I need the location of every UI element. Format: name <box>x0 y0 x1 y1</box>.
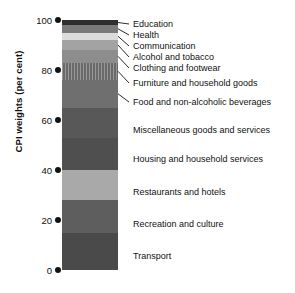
bar-segment <box>62 25 118 33</box>
bar-segment <box>62 200 118 233</box>
segment-label: Furniture and household goods <box>133 79 258 88</box>
y-tick-dot <box>55 17 61 23</box>
bar-segment <box>62 40 118 50</box>
bar-segment <box>62 33 118 41</box>
y-tick-label: 80 <box>0 65 52 76</box>
stacked-bar <box>62 20 118 270</box>
leader-line <box>118 29 129 35</box>
bar-segment <box>62 233 118 271</box>
bar-segment <box>62 20 118 25</box>
segment-label: Housing and household services <box>133 155 263 164</box>
y-tick-dot <box>55 217 61 223</box>
y-tick-label: 0 <box>0 265 52 276</box>
bar-segment <box>62 80 118 108</box>
y-tick-dot <box>55 267 61 273</box>
y-tick-label: 20 <box>0 215 52 226</box>
y-tick-dot <box>55 117 61 123</box>
leader-line <box>118 94 129 102</box>
bar-segment <box>62 50 118 63</box>
bar-segment <box>62 108 118 138</box>
segment-label: Clothing and footwear <box>133 64 221 73</box>
y-tick-dot <box>55 67 61 73</box>
segment-label: Recreation and culture <box>133 220 224 229</box>
bar-segment <box>62 63 118 81</box>
segment-label: Food and non-alcoholic beverages <box>133 98 271 107</box>
leader-line <box>118 56 129 68</box>
bar-segment <box>62 170 118 200</box>
segment-label: Communication <box>133 42 196 51</box>
y-tick-label: 60 <box>0 115 52 126</box>
leader-line <box>118 45 129 57</box>
y-tick-label: 40 <box>0 165 52 176</box>
segment-label: Restaurants and hotels <box>133 188 226 197</box>
segment-label: Miscellaneous goods and services <box>133 126 270 135</box>
leader-line <box>118 23 129 25</box>
leader-line <box>118 71 129 83</box>
segment-label: Education <box>133 20 173 29</box>
chart-canvas: CPI weights (per cent) 020406080100 Tran… <box>0 0 295 293</box>
leader-line <box>118 36 129 46</box>
y-axis-title: CPI weights (per cent) <box>13 32 24 172</box>
y-tick-dot <box>55 167 61 173</box>
segment-label: Health <box>133 31 159 40</box>
segment-label: Alcohol and tobacco <box>133 53 214 62</box>
y-tick-label: 100 <box>0 15 52 26</box>
bar-segment <box>62 138 118 171</box>
segment-label: Transport <box>133 252 171 261</box>
